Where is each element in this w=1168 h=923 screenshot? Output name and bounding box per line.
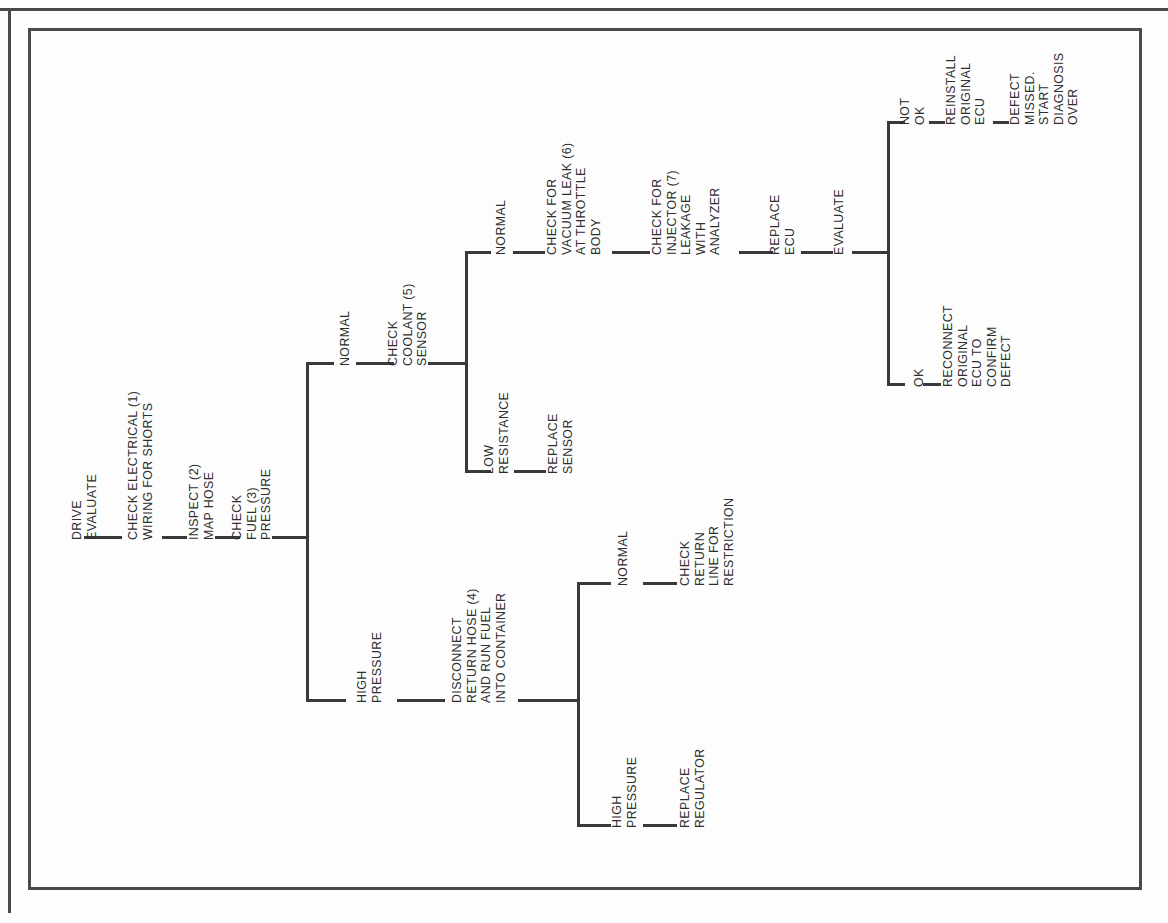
node-check-injector-leakage: CHECK FOR INJECTOR (7) LEAKAGE WITH ANAL… xyxy=(650,170,723,255)
label-not-ok: NOT OK xyxy=(898,98,927,125)
edge-ok-out xyxy=(887,383,905,386)
split-fuel-pressure xyxy=(306,362,309,702)
node-defect-missed: DEFECT MISSED. START DIAGNOSIS OVER xyxy=(1008,53,1081,125)
node-replace-sensor: REPLACE SENSOR xyxy=(546,413,575,474)
edge-normal-to-vacuum xyxy=(513,251,545,254)
split-return-hose xyxy=(577,582,580,827)
edge-high-to-regulator xyxy=(643,824,677,827)
label-normal-top: NORMAL xyxy=(338,311,353,366)
node-reinstall-original-ecu: REINSTALL ORIGINAL ECU xyxy=(944,55,988,125)
node-check-fuel-pressure: CHECK FUEL (3) PRESSURE xyxy=(230,469,274,540)
node-check-return-line: CHECK RETURN LINE FOR RESTRICTION xyxy=(678,498,736,586)
label-low-resistance: LOW RESISTANCE xyxy=(482,392,511,474)
diagram-page: DRIVE EVALUATE CHECK ELECTRICAL (1) WIRI… xyxy=(0,0,1168,923)
node-reconnect-original-ecu: RECONNECT ORIGINAL ECU TO CONFIRM DEFECT xyxy=(941,305,1014,387)
label-high-pressure-return: HIGH PRESSURE xyxy=(610,757,639,828)
label-normal-return: NORMAL xyxy=(616,531,631,586)
node-disconnect-return-hose: DISCONNECT RETURN HOSE (4) AND RUN FUEL … xyxy=(450,588,508,703)
node-inspect-map-hose: INSPECT (2) MAP HOSE xyxy=(187,464,216,540)
edge-return-normal-out xyxy=(577,582,611,585)
split-evaluate xyxy=(887,121,890,386)
edge-coolant-normal-out xyxy=(465,251,491,254)
edge-high-pressure-out xyxy=(306,699,346,702)
edge-lowres-to-replace-sensor xyxy=(514,470,546,473)
edge-normal-to-checkreturn xyxy=(643,582,677,585)
label-high-pressure-main: HIGH PRESSURE xyxy=(355,632,384,703)
edge-reinstall-to-defect xyxy=(993,121,1009,124)
edge-replace-ecu-to-evaluate xyxy=(801,251,833,254)
node-check-coolant-sensor: CHECK COOLANT (5) SENSOR xyxy=(386,283,430,366)
edge-disconnect-to-split xyxy=(518,699,580,702)
edge-normal-top-out xyxy=(306,362,334,365)
edge-return-high-out xyxy=(577,824,611,827)
edge-fuel-to-split xyxy=(272,536,309,539)
edge-notok-to-reinstall xyxy=(929,121,945,124)
node-check-electrical: CHECK ELECTRICAL (1) WIRING FOR SHORTS xyxy=(126,391,155,540)
node-check-vacuum-leak: CHECK FOR VACUUM LEAK (6) AT THROTTLE BO… xyxy=(545,143,603,256)
node-evaluate: EVALUATE xyxy=(832,189,847,255)
edge-evaluate-to-split xyxy=(852,251,890,254)
edge-coolant-to-split xyxy=(428,362,468,365)
label-normal-coolant: NORMAL xyxy=(494,200,509,255)
node-drive-evaluate: DRIVE EVALUATE xyxy=(70,474,99,540)
label-ok: OK xyxy=(912,368,927,387)
edge-vacuum-to-injector xyxy=(612,251,650,254)
edge-highpressure-to-disconnect xyxy=(397,699,445,702)
edge-electrical-to-inspect xyxy=(162,536,187,539)
decision-tree: DRIVE EVALUATE CHECK ELECTRICAL (1) WIRI… xyxy=(0,0,1168,923)
split-coolant-sensor xyxy=(465,251,468,473)
node-replace-regulator: REPLACE REGULATOR xyxy=(678,748,707,828)
node-replace-ecu: REPLACE ECU xyxy=(768,194,797,255)
